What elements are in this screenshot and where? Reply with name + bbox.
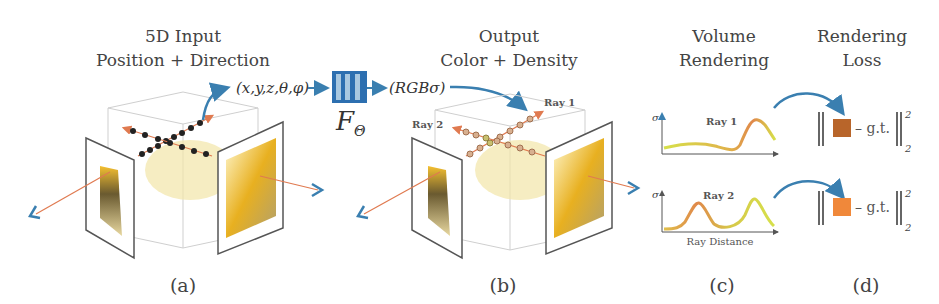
sup-1: 2 — [904, 109, 911, 120]
panel-a-title-line2: Position + Direction — [96, 50, 270, 70]
density-plot-ray1: σ Ray 1 — [652, 112, 779, 157]
input-label: (x,y,z,θ,φ) — [236, 79, 309, 97]
ray1-label-b: Ray 1 — [544, 97, 575, 108]
panel-b: Output Color + Density — [358, 26, 638, 296]
sup-2: 2 — [904, 188, 911, 199]
panel-c: Volume Rendering σ Ray 1 σ Ray 2 Ray Dis… — [652, 26, 779, 296]
panel-c-title-line1: Volume — [691, 26, 756, 46]
loss-term-1: – g.t. 2 2 — [819, 109, 911, 154]
ray2-label-b: Ray 2 — [412, 119, 443, 130]
panel-c-caption: (c) — [709, 274, 734, 296]
ray2-label-c: Ray 2 — [703, 190, 734, 201]
predicted-color-swatch-1 — [833, 119, 851, 137]
left-image-plane-b — [412, 138, 462, 258]
sub-2: 2 — [904, 222, 911, 233]
render-arrow-1 — [774, 93, 842, 112]
loss-term-2: – g.t. 2 2 — [819, 188, 911, 233]
panel-a-title-line1: 5D Input — [145, 26, 221, 46]
function-label: F — [335, 106, 355, 136]
panel-a: 5D Input Position + Direction — [30, 26, 322, 296]
panel-d-caption: (d) — [853, 274, 880, 296]
y-axis-label-2: σ — [652, 189, 660, 200]
panel-d: Rendering Loss – g.t. 2 2 – g.t. 2 2 (d) — [774, 26, 911, 296]
sub-1: 2 — [904, 143, 911, 154]
predicted-color-swatch-2 — [833, 198, 851, 216]
right-image-plane — [218, 122, 283, 254]
panel-c-title-line2: Rendering — [679, 50, 769, 70]
panel-a-caption: (a) — [170, 274, 196, 296]
network-block-icon — [332, 71, 367, 103]
output-label: (RGBσ) — [389, 79, 445, 97]
panel-b-title-line1: Output — [479, 26, 540, 46]
y-axis-label-1: σ — [652, 112, 660, 123]
nerf-diagram: 5D Input Position + Direction — [0, 0, 939, 304]
density-plot-ray2: σ Ray 2 Ray Distance — [652, 189, 779, 247]
ray1-label-c: Ray 1 — [706, 116, 737, 127]
render-arrow-2 — [774, 181, 842, 198]
gt-label-1: – g.t. — [855, 120, 890, 136]
panel-d-title-line2: Loss — [843, 50, 882, 70]
function-subscript: Θ — [354, 123, 366, 139]
right-image-plane-b — [546, 122, 612, 254]
gt-label-2: – g.t. — [855, 199, 890, 215]
panel-b-title-line2: Color + Density — [440, 50, 578, 70]
left-image-plane — [86, 138, 134, 258]
panel-d-title-line1: Rendering — [817, 26, 907, 46]
panel-b-caption: (b) — [490, 274, 517, 296]
x-axis-label: Ray Distance — [687, 236, 754, 247]
